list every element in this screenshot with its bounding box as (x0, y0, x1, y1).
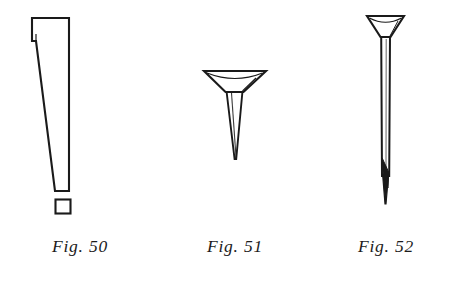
figure-51-drawing (160, 8, 310, 220)
figure-plate: Fig. 50 Fig. 51 (0, 0, 462, 287)
figure-52-svg (310, 8, 462, 220)
finishing-nail-point-tip (383, 174, 389, 204)
figure-51-svg (160, 8, 310, 220)
tack-countersunk-head (204, 71, 266, 92)
cut-nail-body-outline (32, 18, 69, 191)
figure-52-group: Fig. 52 (310, 0, 462, 287)
cut-nail-cross-section-square (56, 200, 71, 214)
figure-50-svg (0, 8, 160, 220)
figure-51-group: Fig. 51 (160, 0, 310, 287)
figure-50-group: Fig. 50 (0, 0, 160, 287)
figure-52-drawing (310, 8, 462, 220)
figure-52-caption: Fig. 52 (310, 236, 462, 257)
tack-shank-point (227, 91, 243, 159)
figure-50-drawing (0, 8, 160, 220)
figure-51-caption: Fig. 51 (160, 236, 316, 257)
